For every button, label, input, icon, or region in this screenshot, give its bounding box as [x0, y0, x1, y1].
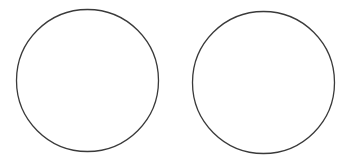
left-circle: [17, 10, 159, 152]
diagram-canvas: [0, 0, 346, 165]
right-circle: [193, 12, 335, 154]
